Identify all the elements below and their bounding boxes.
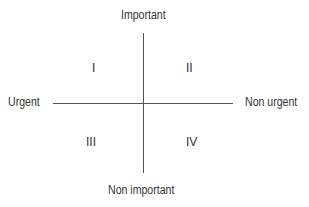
axis-label-non-urgent: Non urgent <box>245 95 297 109</box>
quadrant-label-4: IV <box>186 135 197 149</box>
axis-label-urgent: Urgent <box>8 95 40 109</box>
quadrant-label-2: II <box>186 61 193 75</box>
axis-label-non-important: Non important <box>108 183 174 197</box>
quadrant-label-1: I <box>92 61 95 75</box>
axis-label-important: Important <box>121 8 166 22</box>
quadrant-label-3: III <box>86 135 96 149</box>
horizontal-axis <box>53 103 233 104</box>
